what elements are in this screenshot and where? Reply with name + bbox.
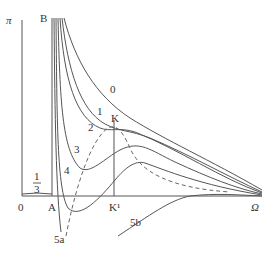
curve-2	[60, 18, 262, 193]
origin-label: 0	[18, 201, 24, 213]
curve-5b-label: 5b	[130, 216, 142, 228]
curve-4-label: 4	[64, 164, 70, 176]
curve-3	[58, 18, 262, 194]
curve-1	[62, 18, 262, 192]
point-k-label: K	[111, 112, 119, 124]
curve-3-label: 3	[74, 143, 80, 155]
curve-5a-label: 5a	[54, 233, 65, 245]
point-a-label: A	[48, 201, 56, 213]
asymptote-numerator: 1	[34, 170, 40, 182]
curve-2-label: 2	[88, 121, 94, 133]
y-axis-label: π	[6, 14, 12, 26]
curve-0	[64, 18, 262, 190]
curve-4	[56, 18, 262, 211]
isotherm-diagram: π B 0 1 K 2 3 4 1 3 0 A K¹ 5a 5b Ω	[0, 0, 276, 255]
curve-0-label: 0	[110, 83, 116, 95]
asymptote-denominator: 3	[34, 183, 40, 195]
point-k1-label: K¹	[109, 201, 120, 213]
spinodal-dashed-curve	[66, 127, 230, 236]
x-axis-label: Ω	[251, 201, 259, 213]
curve-1-label: 1	[97, 105, 103, 117]
point-b-label: B	[40, 12, 47, 24]
